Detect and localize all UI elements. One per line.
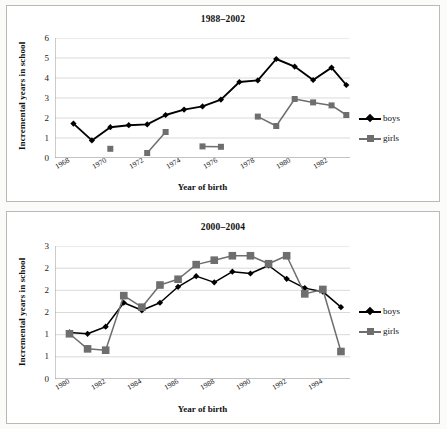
legend-marker-boys-icon — [359, 113, 381, 124]
y-tick-label: 6 — [35, 34, 49, 43]
legend-marker-girls-icon — [359, 326, 381, 337]
legend-item-boys-top[interactable]: boys — [359, 111, 400, 126]
chart-title-bottom: 2000–2004 — [7, 222, 439, 232]
y-tick-label: 5 — [35, 54, 49, 63]
x-tick-label: 1984 — [126, 378, 143, 392]
legend-item-girls-top[interactable]: girls — [359, 131, 400, 146]
y-tick-label: 1 — [35, 352, 49, 361]
x-tick-label: 1968 — [54, 157, 71, 171]
y-tick-label: 0 — [35, 154, 49, 163]
legend-marker-boys-icon — [359, 306, 381, 317]
legend-bottom: boys girls — [359, 304, 400, 344]
y-tick-label: 2 — [35, 264, 49, 273]
x-tick-label: 1992 — [271, 378, 288, 392]
y-tick-label: 3 — [35, 94, 49, 103]
chart-title-top: 1988–2002 — [7, 14, 439, 24]
x-tick-label: 1990 — [235, 378, 252, 392]
x-tick-label: 1976 — [202, 157, 219, 171]
y-axis-label-bottom: Incremental years in school — [17, 244, 27, 379]
chart-panel-1988-2002: 1988–2002 Incremental years in school 01… — [6, 5, 440, 202]
legend-label-girls-bottom: girls — [383, 327, 399, 336]
legend-label-girls-top: girls — [383, 134, 399, 143]
legend-item-boys-bottom[interactable]: boys — [359, 304, 400, 319]
figure-container: 1988–2002 Incremental years in school 01… — [0, 0, 447, 429]
x-tick-label: 1988 — [199, 378, 216, 392]
x-tick-label: 1980 — [54, 378, 71, 392]
legend-item-girls-bottom[interactable]: girls — [359, 324, 400, 339]
y-tick-label: 3 — [35, 242, 49, 251]
y-tick-label: 2 — [35, 286, 49, 295]
y-tick-label: 1 — [35, 134, 49, 143]
legend-top: boys girls — [359, 111, 400, 151]
x-tick-label: 1994 — [307, 378, 324, 392]
y-tick-label: 2 — [35, 114, 49, 123]
y-tick-label: 0 — [35, 375, 49, 384]
plot-area-bottom — [55, 246, 350, 379]
plot-area-top — [55, 38, 350, 158]
legend-marker-girls-icon — [359, 133, 381, 144]
chart-panel-2000-2004: 2000–2004 Incremental years in school 01… — [6, 211, 440, 424]
x-axis-label-top: Year of birth — [55, 182, 350, 192]
legend-label-boys-top: boys — [383, 114, 400, 123]
x-tick-label: 1970 — [91, 157, 108, 171]
x-tick-label: 1986 — [163, 378, 180, 392]
x-tick-label: 1972 — [128, 157, 145, 171]
x-tick-label: 1982 — [90, 378, 107, 392]
y-tick-label: 1 — [35, 330, 49, 339]
x-tick-label: 1980 — [275, 157, 292, 171]
y-tick-label: 2 — [35, 308, 49, 317]
y-tick-label: 4 — [35, 74, 49, 83]
x-tick-label: 1982 — [312, 157, 329, 171]
y-axis-label-top: Incremental years in school — [17, 36, 27, 156]
x-tick-label: 1974 — [165, 157, 182, 171]
x-axis-label-bottom: Year of birth — [55, 404, 350, 414]
x-tick-label: 1978 — [239, 157, 256, 171]
legend-label-boys-bottom: boys — [383, 307, 400, 316]
